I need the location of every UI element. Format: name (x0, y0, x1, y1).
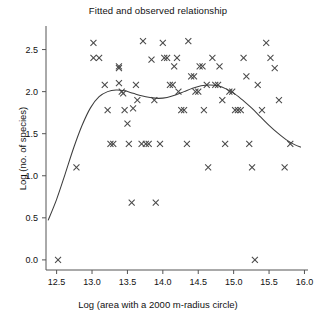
data-point (149, 57, 155, 63)
data-point (134, 97, 140, 103)
data-point (122, 107, 128, 113)
data-point (102, 82, 108, 88)
x-tick-label: 14.0 (154, 277, 172, 287)
data-point (259, 107, 265, 113)
x-tick-label: 14.5 (189, 277, 207, 287)
data-point (171, 63, 177, 69)
data-point (90, 55, 96, 61)
data-point (184, 141, 190, 147)
data-point (90, 40, 96, 46)
data-point (209, 55, 215, 61)
data-point (130, 105, 136, 111)
data-point (185, 38, 191, 44)
data-point (201, 107, 207, 113)
fitted-curve (48, 85, 301, 220)
data-point (96, 55, 102, 61)
data-point (216, 63, 222, 69)
x-tick-label: 13.5 (119, 277, 137, 287)
x-tick-group: 12.513.013.514.014.515.015.516.0 (48, 270, 313, 287)
data-point (255, 82, 261, 88)
data-point (241, 55, 247, 61)
data-point (124, 121, 130, 127)
data-point (205, 164, 211, 170)
x-tick-label: 12.5 (48, 277, 66, 287)
y-axis-label: Log (no. of species) (17, 69, 28, 229)
data-point (160, 40, 166, 46)
data-point (219, 97, 225, 103)
data-point (133, 82, 139, 88)
axes-group (46, 26, 308, 270)
data-point (222, 141, 228, 147)
data-point (105, 107, 111, 113)
data-point-group (55, 38, 293, 263)
data-point (174, 55, 180, 61)
data-point (55, 257, 61, 263)
x-tick-label: 15.5 (260, 277, 278, 287)
data-point (246, 141, 252, 147)
data-point (129, 200, 135, 206)
data-point (252, 257, 258, 263)
data-point (267, 55, 273, 61)
data-point (263, 40, 269, 46)
y-tick-label: 0.0 (25, 255, 38, 265)
data-point (249, 164, 255, 170)
x-axis-label: Log (area with a 2000 m-radius circle) (0, 299, 316, 310)
data-point (243, 73, 249, 79)
data-point (153, 200, 159, 206)
data-point (140, 38, 146, 44)
data-point (126, 141, 132, 147)
chart-figure: Fitted and observed relationship 12.513.… (0, 0, 316, 314)
data-point (157, 141, 163, 147)
data-point (272, 65, 278, 71)
data-point (116, 80, 122, 86)
x-tick-label: 15.0 (225, 277, 243, 287)
x-tick-label: 16.0 (296, 277, 314, 287)
plot-canvas: 12.513.013.514.014.515.015.516.0 0.00.51… (0, 0, 316, 314)
data-point (282, 164, 288, 170)
data-point (276, 97, 282, 103)
x-tick-label: 13.0 (83, 277, 101, 287)
data-point (73, 164, 79, 170)
y-tick-group: 0.00.51.01.52.02.5 (25, 45, 46, 265)
y-tick-label: 2.5 (25, 45, 38, 55)
